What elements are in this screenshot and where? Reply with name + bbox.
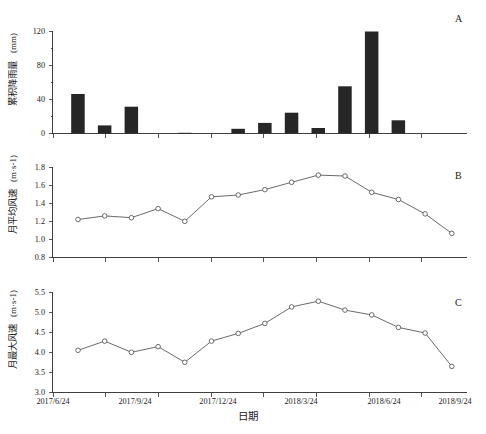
- xtick-label-0: 2017/6/24: [36, 397, 69, 406]
- panel-c-ytick-4: 5.0: [35, 308, 45, 317]
- panel-letter-a: A: [455, 13, 463, 24]
- panel-b-ytick-1: 1.0: [35, 235, 45, 244]
- bar-2017-09: [125, 107, 139, 134]
- bar-2018-04: [312, 128, 326, 134]
- panel-letter-b: B: [455, 170, 462, 181]
- panel-a-ytick-80: 80: [37, 61, 45, 70]
- xtick-label-4: 2018/6/24: [367, 397, 400, 406]
- panel-c-ytick-5: 5.5: [35, 288, 45, 297]
- bar-2018-05: [338, 86, 352, 133]
- panel-b-series-line: [78, 175, 452, 233]
- panel-a-ytick-0: 0: [41, 129, 45, 138]
- panel-a-ytick-40: 40: [37, 95, 45, 104]
- panel-a-y-axis-title: 累积降雨量: [7, 61, 18, 106]
- panel-letter-c: C: [455, 297, 462, 308]
- panel-c-ytick-2: 4.0: [35, 348, 45, 357]
- panel-b: 0.8 1.0 1.2 1.4 1.6 1.8: [7, 155, 467, 262]
- bar-2017-07: [71, 94, 85, 134]
- panel-a-bars: [71, 32, 405, 134]
- panel-c-ytick-3: 4.5: [35, 328, 45, 337]
- panel-b-ytick-4: 1.6: [35, 181, 45, 190]
- bar-2018-01: [231, 129, 245, 134]
- panel-c-y-axis-unit: (m·s-1): [8, 290, 18, 317]
- panel-c: 3.0 3.5 4.0 4.5 5.0 5.5: [7, 288, 467, 398]
- panel-b-x-ticks: [53, 258, 422, 262]
- xtick-label-3: 2018/3/24: [284, 397, 317, 406]
- figure-container: 0 40 80 120: [0, 0, 486, 434]
- panel-b-y-axis-unit: (m·s-1): [8, 155, 18, 182]
- x-axis-title: 日期: [238, 410, 258, 422]
- panel-c-markers: [76, 299, 454, 369]
- panel-c-series-line: [78, 301, 452, 366]
- panel-c-y-ticks: 3.0 3.5 4.0 4.5 5.0 5.5: [35, 288, 53, 398]
- xtick-label-1: 2017/9/24: [118, 397, 151, 406]
- multi-panel-chart: 0 40 80 120: [0, 0, 486, 434]
- bar-2018-06: [365, 32, 379, 134]
- x-axis-tick-labels: 2017/6/24 2017/9/24 2017/12/24 2018/3/24…: [36, 397, 471, 406]
- panel-c-ytick-1: 3.5: [35, 368, 45, 377]
- bar-2017-11: [178, 133, 192, 134]
- bar-2018-07: [392, 120, 406, 133]
- panel-b-y-ticks: 0.8 1.0 1.2 1.4 1.6 1.8: [35, 163, 53, 263]
- bar-2018-03: [285, 113, 299, 134]
- panel-b-ytick-2: 1.2: [35, 217, 45, 226]
- panel-b-y-axis-title: 月平均风速: [7, 189, 18, 234]
- panel-a-ytick-120: 120: [33, 27, 45, 36]
- panel-a-y-ticks: 0 40 80 120: [33, 27, 53, 138]
- bar-2017-08: [98, 125, 112, 133]
- panel-a: 0 40 80 120: [7, 13, 467, 138]
- xtick-label-5: 2018/9/24: [438, 397, 471, 406]
- panel-b-markers: [76, 173, 454, 236]
- panel-a-y-axis-unit: (mm): [8, 33, 18, 53]
- panel-b-ytick-5: 1.8: [35, 163, 45, 172]
- xtick-label-2: 2017/12/24: [199, 397, 236, 406]
- panel-a-x-ticks: [53, 134, 422, 138]
- bar-2018-02: [258, 123, 272, 134]
- panel-b-ytick-3: 1.4: [35, 199, 45, 208]
- panel-c-y-axis-title: 月最大风速: [7, 324, 18, 369]
- panel-b-ytick-0: 0.8: [35, 253, 45, 262]
